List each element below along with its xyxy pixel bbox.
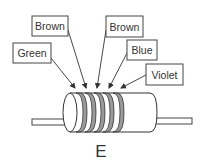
- label-blue-text: Blue: [131, 44, 152, 56]
- arrow-green: [51, 58, 75, 88]
- left-lead: [32, 119, 68, 125]
- label-brown-2-text: Brown: [110, 21, 140, 33]
- label-brown-1: Brown: [32, 16, 68, 36]
- label-violet: Violet: [146, 64, 183, 85]
- label-brown-2: Brown: [106, 16, 143, 37]
- right-lead: [152, 118, 192, 124]
- resistor-color-code-diagram: Green Brown Brown Blue Violet E: [0, 0, 201, 166]
- arrow-brown-1: [68, 30, 86, 88]
- arrow-violet: [121, 75, 146, 88]
- arrow-brown-2: [97, 30, 106, 88]
- label-green: Green: [13, 43, 51, 63]
- label-brown-1-text: Brown: [35, 20, 65, 32]
- label-green-text: Green: [17, 47, 46, 59]
- diagram-caption: E: [95, 142, 106, 161]
- label-violet-text: Violet: [151, 69, 177, 81]
- arrow-blue: [109, 53, 127, 88]
- label-blue: Blue: [127, 40, 157, 60]
